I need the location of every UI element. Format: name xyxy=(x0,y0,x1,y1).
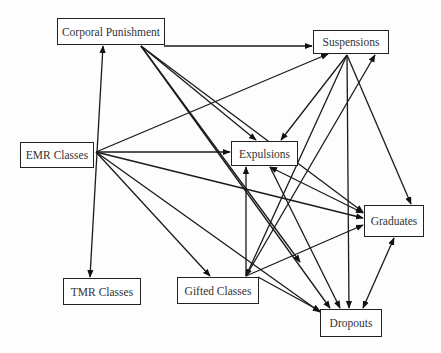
edge-suspensions-to-dropouts xyxy=(347,55,349,308)
node-label: Graduates xyxy=(371,215,418,227)
node-label: Corporal Punishment xyxy=(62,26,160,38)
node-label: Suspensions xyxy=(323,36,380,48)
edge-emr-to-gifted xyxy=(96,152,210,276)
node-expulsions: Expulsions xyxy=(231,141,298,166)
edge-emr-to-suspensions xyxy=(96,54,328,152)
node-tmr: TMR Classes xyxy=(63,278,141,305)
edge-emr-to-graduates xyxy=(96,152,363,218)
node-label: EMR Classes xyxy=(26,149,88,161)
node-label: Expulsions xyxy=(239,148,290,160)
node-emr: EMR Classes xyxy=(20,142,94,168)
node-label: TMR Classes xyxy=(71,286,133,298)
node-gifted: Gifted Classes xyxy=(177,277,259,304)
edge-suspensions-to-graduates xyxy=(347,55,411,204)
diagram-canvas: Corporal PunishmentSuspensionsEMR Classe… xyxy=(0,0,441,353)
node-graduates: Graduates xyxy=(364,205,424,237)
node-dropouts: Dropouts xyxy=(320,309,382,337)
node-label: Gifted Classes xyxy=(185,285,252,297)
node-label: Dropouts xyxy=(330,317,373,329)
node-corporal: Corporal Punishment xyxy=(57,18,165,45)
edge-gifted-to-graduates xyxy=(246,225,363,276)
edge-expulsions-to-dropouts xyxy=(270,167,340,308)
node-suspensions: Suspensions xyxy=(313,30,389,54)
edge-graduates-to-dropouts xyxy=(363,238,394,308)
edge-corporal-to-graduates xyxy=(141,46,363,212)
